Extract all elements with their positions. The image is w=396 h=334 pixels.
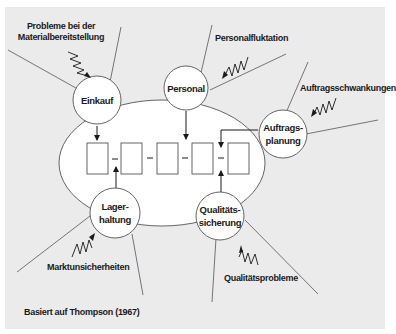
- disturbance-label-material: Probleme bei der Materialbereitstellung: [18, 21, 104, 43]
- process-box: [192, 143, 213, 174]
- arrowhead-icon: [89, 233, 95, 241]
- disturbance-zigzag-icon: [68, 52, 88, 76]
- process-box: [228, 143, 249, 174]
- disturbance-label-qualitaet: Qualitätsprobleme: [224, 273, 298, 284]
- node-personal-label: Personal: [167, 82, 205, 95]
- node-einkauf-label: Einkauf: [81, 94, 113, 107]
- disturbance-zigzag-icon: [72, 240, 92, 257]
- process-box: [157, 143, 178, 174]
- process-box: [121, 143, 142, 174]
- node-auftragsplanung-label: Auftrags- planung: [263, 121, 303, 147]
- disturbance-label-personal: Personalfluktation: [215, 33, 288, 44]
- arrowhead-icon: [84, 72, 91, 78]
- node-lagerhaltung-label: Lager- haltung: [99, 200, 131, 226]
- arrowhead-icon: [239, 245, 243, 253]
- disturbance-label-auftrag: Auftragsschwankungen: [300, 83, 396, 94]
- arrowhead-icon: [222, 71, 228, 79]
- disturbance-label-markt: Marktunsicherheiten: [47, 262, 129, 273]
- source-caption: Basiert auf Thompson (1967): [24, 307, 139, 318]
- disturbance-zigzag-icon: [225, 57, 248, 76]
- disturbance-zigzag-icon: [314, 98, 336, 115]
- process-box: [87, 143, 108, 174]
- node-qualitaetssicherung-label: Qualitäts- sicherung: [199, 203, 242, 229]
